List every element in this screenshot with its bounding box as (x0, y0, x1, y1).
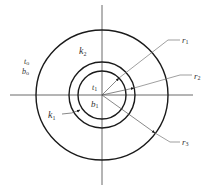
label-r1: r1 (182, 35, 189, 45)
r1-radius-arrow (102, 78, 119, 95)
label-t0: to (24, 57, 29, 66)
r1-leader-line (119, 40, 180, 78)
label-b1: b1 (91, 99, 99, 109)
label-k2: k2 (79, 45, 86, 57)
label-r2: r2 (194, 71, 201, 81)
label-b0: bo (22, 67, 29, 76)
label-r3: r3 (182, 137, 189, 147)
label-t1: t1 (92, 83, 97, 92)
r2-radius-arrow (102, 88, 134, 95)
label-k1: k1 (48, 109, 55, 121)
r3-leader-line (155, 133, 180, 142)
r2-leader-line (134, 75, 192, 88)
concentric-circles-diagram: k2 to bo t1 b1 k1 r1 r2 r3 (0, 0, 214, 192)
k1-leader-arrow (62, 110, 80, 114)
